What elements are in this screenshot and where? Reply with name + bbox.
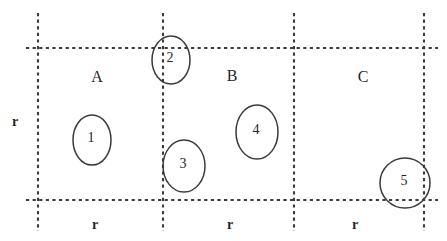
axis-label-horizontal-r-3: r bbox=[352, 217, 358, 232]
region-label-b: B bbox=[227, 67, 238, 84]
diagram-canvas: A B C r r r r 1 2 3 4 5 bbox=[0, 0, 447, 241]
region-label-c: C bbox=[358, 68, 369, 85]
grid-partition-diagram: A B C r r r r 1 2 3 4 5 bbox=[0, 0, 447, 241]
axis-label-horizontal-r-2: r bbox=[227, 217, 233, 232]
region-label-a: A bbox=[91, 68, 103, 85]
item-label-2: 2 bbox=[167, 50, 174, 65]
item-label-5: 5 bbox=[401, 173, 408, 188]
item-label-4: 4 bbox=[253, 122, 260, 137]
axis-label-horizontal-r-1: r bbox=[92, 217, 98, 232]
axis-label-vertical-r: r bbox=[12, 114, 18, 129]
item-label-3: 3 bbox=[180, 156, 187, 171]
item-label-1: 1 bbox=[88, 130, 95, 145]
